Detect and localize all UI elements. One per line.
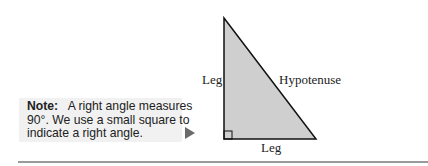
separator-line xyxy=(18,161,428,163)
left-leg-label: Leg xyxy=(202,72,223,87)
hypotenuse-label: Hypotenuse xyxy=(279,72,341,87)
right-triangle-figure: Leg Hypotenuse Leg xyxy=(0,0,428,166)
bottom-leg-label: Leg xyxy=(261,140,282,155)
